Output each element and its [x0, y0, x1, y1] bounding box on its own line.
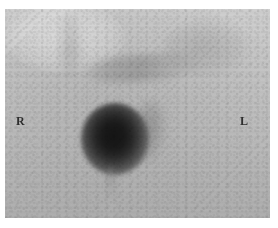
orientation-marker-right: R	[16, 115, 25, 127]
scintigraphy-figure: R L	[0, 0, 278, 228]
scan-line-texture	[5, 9, 270, 218]
scan-image-plate: R L	[5, 9, 270, 218]
orientation-marker-left: L	[240, 115, 248, 127]
